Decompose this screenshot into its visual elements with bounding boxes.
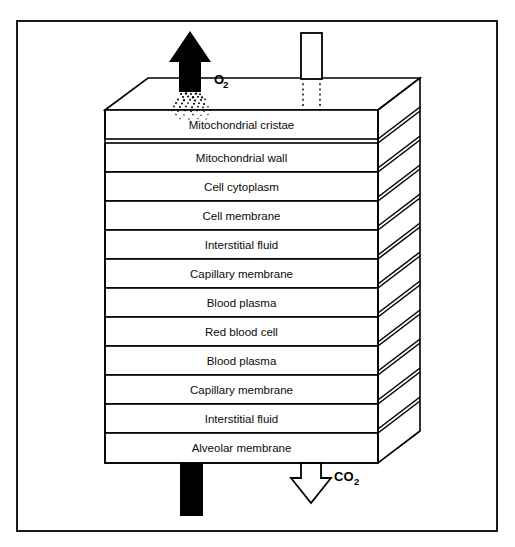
block-top-face bbox=[105, 78, 420, 110]
layer-label-7: Blood plasma bbox=[207, 297, 277, 309]
layer-label-11: Interstitial fluid bbox=[205, 413, 279, 425]
layered-block-diagram: Mitochondrial cristae Mitochondrial wall… bbox=[0, 0, 515, 547]
oxygen-column-bottom bbox=[180, 463, 203, 516]
diagram-figure: Mitochondrial cristae Mitochondrial wall… bbox=[0, 0, 515, 547]
co2-label-subscript: 2 bbox=[354, 476, 359, 487]
layer-label-10: Capillary membrane bbox=[190, 384, 293, 396]
layer-label-6: Capillary membrane bbox=[190, 268, 293, 280]
layer-stack: Mitochondrial cristae Mitochondrial wall… bbox=[105, 110, 378, 463]
layer-label-4: Cell membrane bbox=[203, 210, 281, 222]
layer-label-9: Blood plasma bbox=[207, 355, 277, 367]
layer-label-1: Mitochondrial cristae bbox=[189, 119, 294, 131]
layer-label-5: Interstitial fluid bbox=[205, 239, 279, 251]
oxygen-label-subscript: 2 bbox=[223, 79, 228, 90]
co2-column-top bbox=[301, 33, 322, 79]
co2-arrow-down bbox=[291, 463, 331, 503]
layer-label-3: Cell cytoplasm bbox=[204, 181, 279, 193]
co2-label: CO bbox=[334, 469, 354, 484]
layer-label-2: Mitochondrial wall bbox=[196, 152, 287, 164]
layer-label-12: Alveolar membrane bbox=[192, 442, 292, 454]
layer-label-8: Red blood cell bbox=[205, 326, 278, 338]
